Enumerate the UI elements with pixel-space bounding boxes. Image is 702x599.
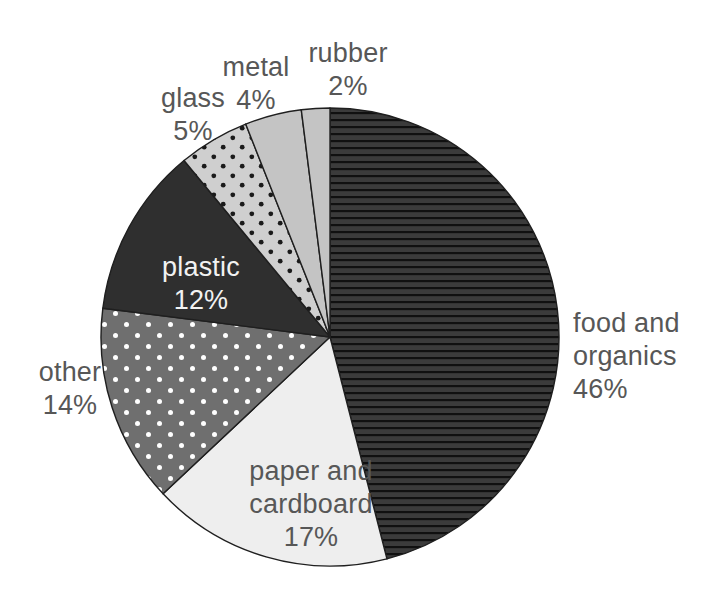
pie-label-metal-value: 4% <box>212 84 300 117</box>
pie-label-food-and-organics-name: food and <box>573 307 693 340</box>
pie-label-paper-and-cardboard-name: paper and <box>226 455 396 488</box>
pie-label-food-and-organics-value: 46% <box>573 373 693 406</box>
pie-label-plastic: plastic 12% <box>146 251 256 317</box>
pie-chart: food and organics 46% paper and cardboar… <box>0 0 702 599</box>
pie-label-other: other 14% <box>26 356 114 422</box>
pie-label-rubber-name: rubber <box>296 37 400 70</box>
pie-label-other-value: 14% <box>26 389 114 422</box>
pie-label-rubber: rubber 2% <box>296 37 400 103</box>
pie-label-paper-and-cardboard: paper and cardboard 17% <box>226 455 396 554</box>
pie-label-other-name: other <box>26 356 114 389</box>
pie-label-metal: metal 4% <box>212 51 300 117</box>
pie-label-food-and-organics-name2: organics <box>573 340 693 373</box>
pie-label-food-and-organics: food and organics 46% <box>573 307 693 406</box>
pie-label-rubber-value: 2% <box>296 70 400 103</box>
pie-label-glass-value: 5% <box>147 115 239 148</box>
pie-label-paper-and-cardboard-name2: cardboard <box>226 488 396 521</box>
pie-label-paper-and-cardboard-value: 17% <box>226 521 396 554</box>
pie-label-plastic-value: 12% <box>146 284 256 317</box>
pie-label-metal-name: metal <box>212 51 300 84</box>
pie-label-plastic-name: plastic <box>146 251 256 284</box>
